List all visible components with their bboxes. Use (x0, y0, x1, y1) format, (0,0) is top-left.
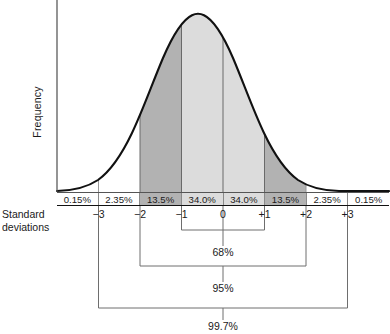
band-label-4: 34.0% (224, 193, 266, 205)
band-area-minus2-minus1 (140, 0, 182, 192)
band-label-3: 34.0% (182, 193, 224, 205)
band-divider-lines (99, 0, 348, 192)
band-label-row: 0.15% 2.35% 13.5% 34.0% 34.0% 13.5% 2.35… (57, 192, 389, 206)
xtick-minus1: −1 (176, 208, 188, 220)
x-axis-caption-line2: deviations (2, 221, 49, 234)
bracket-label-997: 99.7% (208, 320, 238, 332)
bracket-system (99, 206, 348, 320)
bracket-label-95: 95% (212, 282, 233, 294)
band-label-1: 2.35% (99, 193, 141, 205)
chart-canvas (0, 0, 390, 334)
band-label-2: 13.5% (140, 193, 182, 205)
x-axis-caption-line1: Standard (2, 208, 49, 221)
band-label-0: 0.15% (57, 193, 99, 205)
xtick-plus1: +1 (259, 208, 271, 220)
xtick-zero: 0 (220, 208, 226, 220)
xtick-minus2: −2 (134, 208, 146, 220)
y-axis-label: Frequency (31, 57, 43, 167)
xtick-minus3: −3 (93, 208, 105, 220)
band-area-zero-plus1 (223, 0, 265, 192)
x-axis-caption: Standard deviations (2, 208, 49, 233)
band-area-plus1-plus2 (265, 0, 307, 192)
band-label-5: 13.5% (265, 193, 307, 205)
xtick-plus3: +3 (342, 208, 354, 220)
bracket-label-68: 68% (212, 246, 233, 258)
normal-distribution-figure: Frequency 0.15% 2.35% 13.5% 34.0% 34.0% … (0, 0, 390, 334)
band-label-7: 0.15% (348, 193, 389, 205)
band-label-6: 2.35% (307, 193, 349, 205)
xtick-plus2: +2 (300, 208, 312, 220)
